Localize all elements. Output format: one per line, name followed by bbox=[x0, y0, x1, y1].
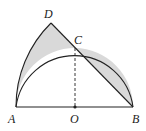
shaded-region-left bbox=[16, 23, 75, 107]
label-D: D bbox=[43, 7, 53, 21]
segment-DB bbox=[51, 23, 133, 107]
label-O: O bbox=[70, 112, 79, 126]
label-A: A bbox=[7, 112, 16, 126]
label-B: B bbox=[132, 112, 140, 126]
label-C: C bbox=[74, 33, 83, 47]
geometry-diagram: A O B C D bbox=[0, 0, 146, 131]
point-O bbox=[73, 105, 76, 108]
